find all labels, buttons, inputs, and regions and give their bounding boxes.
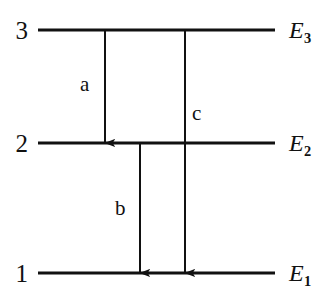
level-number-2: 2: [2, 131, 28, 156]
energy-label-3-base: E: [289, 17, 304, 43]
energy-label-1-subscript: 1: [304, 273, 311, 289]
energy-label-1-base: E: [289, 260, 304, 286]
energy-label-2-subscript: 2: [304, 143, 311, 159]
level-number-1: 1: [2, 261, 28, 286]
level-number-3: 3: [2, 18, 28, 43]
energy-label-3-subscript: 3: [304, 30, 311, 46]
energy-label-2: E2: [289, 131, 311, 155]
energy-level-diagram: 3 2 1 E3 E2 E1 a b c: [0, 0, 335, 302]
transition-label-a: a: [80, 74, 89, 95]
diagram-canvas: [0, 0, 335, 302]
transition-label-b: b: [115, 198, 126, 219]
energy-label-2-base: E: [289, 130, 304, 156]
transition-label-c: c: [192, 103, 201, 124]
energy-label-3: E3: [289, 18, 311, 42]
energy-label-1: E1: [289, 261, 311, 285]
